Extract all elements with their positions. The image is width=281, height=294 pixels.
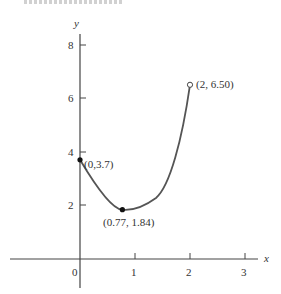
y-tick-label-8: 8 — [68, 39, 74, 51]
y-tick-label-4: 4 — [68, 146, 74, 158]
x-tick-label-1: 1 — [131, 266, 137, 278]
label-end: (2, 6.50) — [196, 78, 234, 91]
point-end-open — [187, 82, 192, 87]
x-axis-label: x — [263, 252, 269, 264]
point-minimum — [120, 207, 125, 212]
y-axis-label: y — [73, 17, 79, 29]
x-tick-label-2: 2 — [186, 266, 192, 278]
y-tick-label-2: 2 — [68, 199, 74, 211]
label-minimum: (0.77, 1.84) — [103, 216, 155, 229]
origin-label: 0 — [72, 266, 78, 278]
chart: 0 1 2 3 8 6 4 2 x y (0,3.7) (0.77, 1.84)… — [0, 0, 281, 294]
function-curve — [80, 85, 190, 210]
point-start — [77, 157, 82, 162]
x-tick-label-3: 3 — [241, 266, 247, 278]
label-start: (0,3.7) — [84, 158, 114, 171]
y-tick-label-6: 6 — [68, 92, 74, 104]
